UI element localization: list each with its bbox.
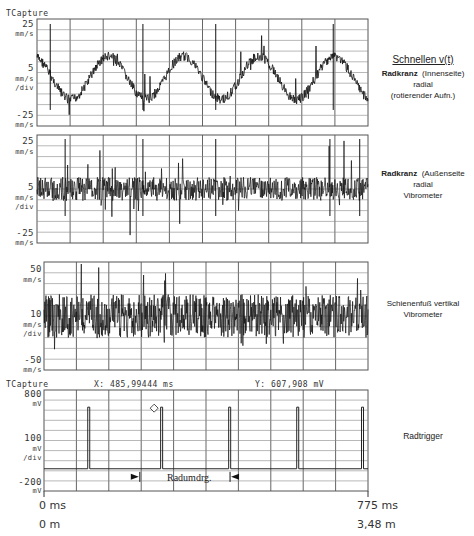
- p3-ytick-mid-unit: mm/s: [8, 321, 42, 330]
- p2-ytick-mid-unit: mm/s: [4, 194, 34, 203]
- p1-desc-line2: radial: [372, 79, 474, 90]
- chart-title: Schnellen v(t): [372, 54, 474, 65]
- p4-desc-line1: Radtrigger: [372, 431, 474, 442]
- p4-ytick-bottom-unit: mV: [8, 487, 42, 496]
- p2-ytick-bottom: -25: [4, 229, 34, 238]
- p3-ytick-top: 50: [14, 265, 42, 274]
- p3-desc-line1: Schienenfuß vertikal: [372, 298, 474, 309]
- tcapture-label-top: TCapture: [6, 9, 49, 18]
- p3-ytick-mid: 10: [14, 310, 42, 319]
- p3-ytick-top-unit: mm/s: [8, 276, 42, 285]
- p2-description: Radkranz (Außenseite radial Vibrometer: [372, 168, 474, 201]
- p3-ytick-bottom: -50: [8, 356, 42, 365]
- p3-desc-line2: Vibrometer: [372, 309, 474, 320]
- p4-ytick-mid-unit2: /div: [8, 454, 42, 463]
- p2-desc-line3: Vibrometer: [372, 190, 474, 201]
- cursor-y-readout: Y: 607,908 mV: [255, 380, 324, 389]
- p2-desc-line1: Radkranz: [381, 169, 417, 178]
- p1-ytick-mid-unit: mm/s: [4, 75, 34, 84]
- x-end-ms: 775 ms: [357, 499, 398, 512]
- p1-ytick-top: 25: [10, 20, 34, 29]
- p1-desc-line3: (rotierender Aufn.): [372, 90, 474, 101]
- p1-ytick-top-unit: mm/s: [4, 30, 34, 39]
- p1-ytick-bottom-unit: mm/s: [4, 121, 34, 130]
- p1-ytick-mid: 5: [10, 64, 34, 73]
- x-start-ms: 0 ms: [39, 499, 66, 512]
- p1-ytick-bottom: -25: [4, 111, 34, 120]
- p2-desc-line1b: (Außenseite: [422, 169, 465, 178]
- p2-ytick-top: 25: [10, 137, 34, 146]
- p1-description: Radkranz (Innenseite) radial (rotierende…: [372, 68, 474, 101]
- p3-ytick-bottom-unit: mm/s: [8, 366, 42, 375]
- p4-ytick-top: 800: [8, 390, 42, 399]
- p2-desc-line2: radial: [372, 179, 474, 190]
- cursor-x-readout: X: 485,99444 ms: [94, 380, 174, 389]
- p3-description: Schienenfuß vertikal Vibrometer: [372, 298, 474, 320]
- p4-ytick-top-unit: mV: [8, 400, 42, 409]
- x-start-m: 0 m: [39, 518, 60, 531]
- p1-desc-line1b: (Innenseite): [422, 69, 464, 78]
- p2-ytick-mid: 5: [10, 183, 34, 192]
- x-end-m: 3,48 m: [357, 518, 396, 531]
- p4-ytick-bottom: -200: [8, 478, 42, 487]
- tcapture-label-bottom: TCapture: [6, 380, 49, 389]
- p4-description: Radtrigger: [372, 431, 474, 442]
- p3-ytick-mid-unit2: /div: [8, 330, 42, 339]
- p1-desc-line1: Radkranz: [382, 69, 418, 78]
- revolution-annotation: Radumdrg.: [167, 472, 212, 483]
- p4-ytick-mid: 100: [8, 434, 42, 443]
- p1-ytick-mid-unit2: /div: [4, 84, 34, 93]
- p2-ytick-mid-unit2: /div: [4, 203, 34, 212]
- p2-ytick-top-unit: mm/s: [4, 148, 34, 157]
- p2-ytick-bottom-unit: mm/s: [4, 239, 34, 248]
- p4-ytick-mid-unit: mV: [8, 445, 42, 454]
